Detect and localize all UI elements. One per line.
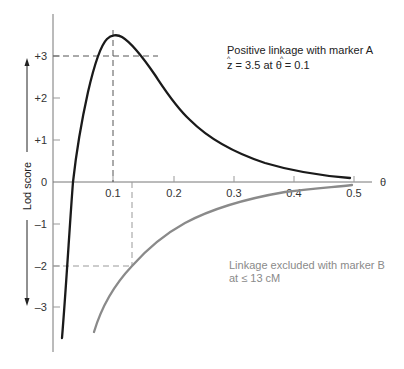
y-tick-label: –3: [35, 301, 47, 313]
x-tick-label: 0.3: [226, 187, 241, 199]
annotation-marker-b: Linkage excluded with marker B at ≤ 13 c…: [229, 259, 385, 284]
y-axis-label-group: Lod score: [21, 58, 33, 306]
annotation-marker-a: Positive linkage with marker A z = 3.5 a…: [227, 44, 374, 71]
y-axis-label: Lod score: [21, 162, 33, 210]
annotation-a-value: z = 3.5 at θ = 0.1: [227, 59, 310, 71]
y-tick-label: –1: [35, 218, 47, 230]
y-tick-label: –2: [35, 260, 47, 272]
lod-score-chart: +3 +2 +1 0 –1 –2 –3 0.1 0.2 0.3 0.4 0.5 …: [0, 0, 404, 369]
x-axis-label: θ: [380, 176, 386, 188]
annotation-b-value: at ≤ 13 cM: [229, 272, 280, 284]
annotation-a-title: Positive linkage with marker A: [227, 44, 374, 56]
y-tick-labels: +3 +2 +1 0 –1 –2 –3: [34, 50, 47, 313]
annotation-b-title: Linkage excluded with marker B: [229, 259, 385, 271]
x-tick-label: 0.5: [346, 187, 361, 199]
x-tick-label: 0.1: [105, 187, 120, 199]
y-tick-label: 0: [41, 176, 47, 188]
y-tick-label: +2: [34, 92, 47, 104]
x-ticks: [113, 176, 354, 182]
x-tick-label: 0.2: [166, 187, 181, 199]
y-tick-label: +1: [34, 134, 47, 146]
arrow-up-icon: [25, 58, 30, 66]
x-tick-label: 0.4: [286, 187, 301, 199]
y-tick-label: +3: [34, 50, 47, 62]
arrow-down-icon: [25, 298, 30, 306]
